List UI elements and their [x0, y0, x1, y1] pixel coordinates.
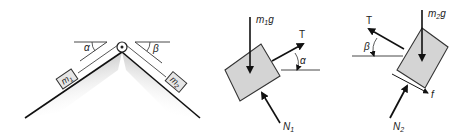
normal-label-m1: N1: [283, 121, 294, 133]
weight-label-m2: m2g: [428, 8, 446, 20]
alpha-label-m1: α: [300, 55, 306, 66]
free-body-diagram-m2: m2g T β f N2: [352, 8, 448, 133]
normal-label-m2: N2: [393, 121, 404, 133]
beta-label: β: [152, 43, 159, 54]
beta-label-m2: β: [363, 41, 370, 52]
alpha-label: α: [84, 42, 90, 53]
normal-arrow-m2: [390, 86, 407, 118]
alpha-arc: [92, 42, 95, 51]
weight-label-m1: m1g: [256, 14, 274, 26]
mass2-block: m2: [165, 72, 187, 93]
alpha-arc-m1: [295, 53, 298, 70]
tension-arrow-m2: [369, 29, 404, 49]
beta-arc-m2: [373, 38, 377, 56]
normal-arrow-m1: [262, 93, 280, 123]
diagram-canvas: α β m1 m2 m1g T α N1: [0, 0, 476, 138]
incline-system-figure: α β m1 m2: [25, 42, 200, 118]
free-body-diagram-m1: m1g T α N1: [225, 14, 320, 133]
left-incline-surface: [25, 52, 122, 118]
friction-label-m2: f: [431, 89, 435, 100]
beta-arc: [147, 42, 150, 51]
tension-label-m1: T: [299, 29, 305, 40]
block-m1: [225, 44, 280, 101]
tension-label-m2: T: [366, 15, 372, 26]
tension-arrow-m1: [272, 44, 303, 61]
